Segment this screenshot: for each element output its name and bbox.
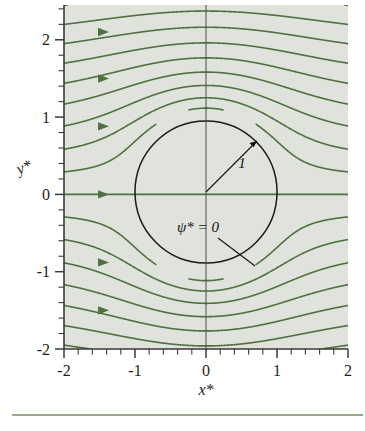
y-tick-label: 0: [42, 186, 50, 203]
x-tick-label: 2: [344, 362, 352, 379]
y-tick-label: 2: [42, 31, 50, 48]
x-tick-label: -1: [128, 362, 141, 379]
y-tick-label: -2: [37, 341, 50, 358]
streamfunction-label: ψ* = 0: [177, 219, 219, 235]
x-tick-label: 0: [202, 362, 210, 379]
y-axis-tick-labels: 210-1-2: [37, 31, 50, 357]
x-axis-title: x*: [197, 381, 213, 398]
y-tick-label: 1: [42, 109, 50, 126]
x-axis-ticks: [64, 349, 348, 358]
y-axis-ticks: [55, 9, 64, 349]
x-tick-label: 1: [273, 362, 281, 379]
potential-flow-plot: -2-1012 210-1-2 x* y* 1 ψ* = 0: [0, 0, 365, 431]
streamline-figure: -2-1012 210-1-2 x* y* 1 ψ* = 0: [0, 0, 365, 431]
radius-label: 1: [238, 155, 246, 171]
x-tick-label: -2: [57, 362, 70, 379]
x-axis-tick-labels: -2-1012: [57, 362, 352, 379]
y-tick-label: -1: [37, 263, 50, 280]
y-axis-title: y*: [12, 156, 35, 179]
